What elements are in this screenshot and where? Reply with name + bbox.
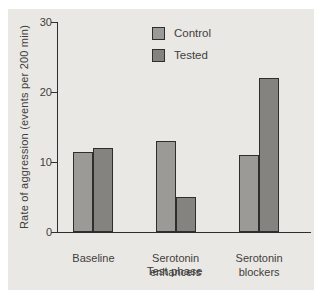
bar-tested-0 <box>93 148 113 232</box>
y-tick-label: 30 <box>28 16 52 28</box>
bar-tested-1 <box>176 197 196 232</box>
y-tick-label: 20 <box>28 86 52 98</box>
legend-swatch-tested <box>152 49 165 62</box>
legend-label: Tested <box>174 49 208 61</box>
legend: ControlTested <box>152 26 211 70</box>
legend-label: Control <box>174 27 211 39</box>
bar-control-1 <box>156 141 176 232</box>
bar-control-0 <box>73 152 93 233</box>
legend-item-control: Control <box>152 26 211 40</box>
y-tick-label: 10 <box>28 156 52 168</box>
x-category-label: Baseline <box>51 251 135 265</box>
figure-panel: Rate of aggression (events per 200 min) … <box>8 9 314 290</box>
x-axis-label: Test phase <box>57 265 292 277</box>
bar-tested-2 <box>259 78 279 232</box>
bar-control-2 <box>239 155 259 232</box>
y-axis-label: Rate of aggression (events per 200 min) <box>18 25 30 229</box>
legend-item-tested: Tested <box>152 48 211 62</box>
y-tick-label: 0 <box>28 226 52 238</box>
legend-swatch-control <box>152 27 165 40</box>
